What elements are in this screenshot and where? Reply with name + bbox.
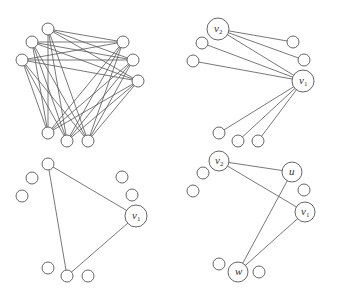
edge-b-v1 [202, 43, 303, 81]
node-label-w: w [235, 265, 243, 277]
panel-four-cycle: v2uv1w [187, 151, 315, 282]
node-h [61, 270, 73, 282]
edge-d-g [48, 42, 123, 133]
edge-v1-h [238, 81, 303, 141]
node-e [298, 54, 310, 66]
node-a [42, 23, 54, 35]
node-b [26, 172, 38, 184]
edge-a-h [48, 164, 67, 276]
node-e [298, 184, 310, 196]
graph-figure: v2v1v1v2uv1w [0, 0, 337, 295]
node-b [197, 167, 209, 179]
node-i [252, 135, 264, 147]
node-h [61, 135, 73, 147]
node-g [42, 262, 54, 274]
edge-e-i [88, 60, 133, 141]
edge-d-i [88, 42, 123, 141]
node-d [287, 36, 299, 48]
edge-u-w [238, 172, 292, 272]
node-d [117, 36, 129, 48]
node-h [232, 135, 244, 147]
panel-complete-tripartite [16, 23, 144, 147]
edge-v1-g [219, 81, 303, 133]
edge-d-h [67, 42, 123, 141]
node-b [26, 36, 38, 48]
node-c [16, 54, 28, 66]
edge-c-g [22, 60, 48, 133]
node-b [196, 37, 208, 49]
node-c [187, 185, 199, 197]
edge-v2-u [219, 161, 292, 172]
node-a [42, 158, 54, 170]
node-g [213, 258, 225, 270]
edge-a-i [48, 29, 88, 141]
node-c [187, 55, 199, 67]
node-label-u: u [289, 165, 295, 177]
node-c [16, 190, 28, 202]
node-i [82, 270, 94, 282]
edge-h-v1 [67, 216, 136, 276]
node-d [116, 171, 128, 183]
edge-b-h [32, 42, 67, 141]
panel-star-v1-v2: v2v1 [187, 18, 314, 147]
node-f [132, 75, 144, 87]
node-i [82, 135, 94, 147]
edge-e-h [67, 60, 133, 141]
node-g [213, 127, 225, 139]
panel-triangle: v1 [16, 158, 147, 282]
node-e [126, 189, 138, 201]
edge-v1-w [238, 212, 305, 272]
node-i [253, 266, 265, 278]
node-g [42, 127, 54, 139]
node-e [127, 54, 139, 66]
